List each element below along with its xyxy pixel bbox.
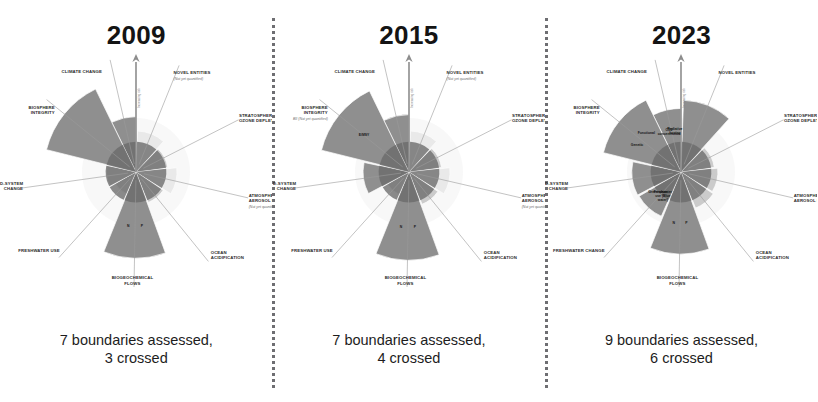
boundary-label: CHANGE <box>277 186 296 191</box>
boundary-label: INTEGRITY <box>31 110 55 115</box>
boundary-label: ACIDIFICATION <box>756 255 789 260</box>
boundary-sublabel: water) <box>657 198 668 202</box>
boundary-label: FLOWS <box>670 281 686 286</box>
caption-line-1: 9 boundaries assessed, <box>605 332 758 348</box>
boundary-note: (Not yet quantified) <box>174 77 204 81</box>
wedges <box>321 91 463 260</box>
boundary-label: FRESHWATER CHANGE <box>554 248 606 253</box>
boundary-label: FRESHWATER USE <box>291 248 332 253</box>
caption-line-2: 4 crossed <box>273 349 546 368</box>
panel-2023: 2023 Increasing riskCLIMATE CHANGECO2con… <box>545 0 818 402</box>
caption-line-2: 3 crossed <box>0 349 273 368</box>
boundary-note: (Not yet quantified) <box>446 77 476 81</box>
boundary-label: CLIMATE CHANGE <box>62 69 102 74</box>
boundary-label: CLIMATE CHANGE <box>335 69 375 74</box>
boundary-sublabel: Functional <box>638 131 655 135</box>
panel-2009: 2009 Increasing riskCLIMATE CHANGENOVEL … <box>0 0 273 402</box>
boundary-label: CHANGE <box>4 186 23 191</box>
boundary-note: (Not yet quantified) <box>522 205 545 209</box>
boundary-label: AEROSOL LOADING <box>249 198 272 203</box>
radial-chart-2023: Increasing riskCLIMATE CHANGECO2concentr… <box>545 54 817 304</box>
radial-chart-svg-2023: Increasing riskCLIMATE CHANGECO2concentr… <box>545 54 817 304</box>
boundary-label: CLIMATE CHANGE <box>607 69 647 74</box>
boundary-label: INTEGRITY <box>304 110 328 115</box>
boundary-sublabel: Genetic <box>631 143 644 147</box>
risk-axis-label: Increasing risk <box>137 88 141 108</box>
panel-title-2009: 2009 <box>107 22 166 48</box>
caption-line-1: 7 boundaries assessed, <box>60 332 213 348</box>
radial-chart-svg-2015: Increasing riskCLIMATE CHANGENOVEL ENTIT… <box>273 54 545 304</box>
radial-chart-svg-2009: Increasing riskCLIMATE CHANGENOVEL ENTIT… <box>0 54 272 304</box>
wedges <box>604 100 736 254</box>
boundary-label: ACIDIFICATION <box>211 255 244 260</box>
boundary-sublabel: forcing <box>670 131 682 135</box>
boundary-label: ACIDIFICATION <box>484 255 517 260</box>
boundary-label: OZONE DEPLETION <box>512 118 545 123</box>
boundary-label: INTEGRITY <box>576 110 600 115</box>
risk-axis-label: Increasing risk <box>682 88 686 108</box>
radial-chart-2009: Increasing riskCLIMATE CHANGENOVEL ENTIT… <box>0 54 272 304</box>
boundary-note: BII (Not yet quantified) <box>293 117 328 121</box>
risk-axis-arrow-icon <box>678 54 685 62</box>
boundary-label: OZONE DEPLETION <box>239 118 272 123</box>
panel-caption-2009: 7 boundaries assessed, 3 crossed <box>0 331 273 368</box>
boundary-sublabel: Green water <box>649 190 669 194</box>
boundary-label: FLOWS <box>397 281 413 286</box>
radial-chart-2015: Increasing riskCLIMATE CHANGENOVEL ENTIT… <box>273 54 545 304</box>
wedges <box>47 89 191 258</box>
boundary-label: AEROSOL LOADING <box>522 198 545 203</box>
panel-title-2023: 2023 <box>652 22 711 48</box>
boundary-label: NOVEL ENTITIES <box>174 70 211 75</box>
risk-axis-label: Increasing risk <box>410 88 414 108</box>
boundary-label: OZONE DEPLETION <box>784 118 817 123</box>
boundary-sublabel: E/MSY <box>359 133 370 137</box>
panel-caption-2015: 7 boundaries assessed, 4 crossed <box>273 331 546 368</box>
boundary-label: NOVEL ENTITIES <box>446 70 483 75</box>
panel-2015: 2015 Increasing riskCLIMATE CHANGENOVEL … <box>273 0 546 402</box>
boundary-note: (Not yet quantified) <box>249 205 272 209</box>
boundary-label: CHANGE <box>549 186 568 191</box>
boundary-label: FLOWS <box>125 281 141 286</box>
panel-caption-2023: 9 boundaries assessed, 6 crossed <box>545 331 818 368</box>
panel-title-2015: 2015 <box>379 22 438 48</box>
caption-line-2: 6 crossed <box>545 349 818 368</box>
boundary-label: FRESHWATER USE <box>19 248 60 253</box>
risk-axis-arrow-icon <box>405 54 412 62</box>
boundary-label: AEROSOL LOADING <box>794 198 817 203</box>
planetary-boundaries-figure: 2009 Increasing riskCLIMATE CHANGENOVEL … <box>0 0 818 402</box>
caption-line-1: 7 boundaries assessed, <box>332 332 485 348</box>
risk-axis-arrow-icon <box>133 54 140 62</box>
boundary-label: NOVEL ENTITIES <box>719 70 756 75</box>
